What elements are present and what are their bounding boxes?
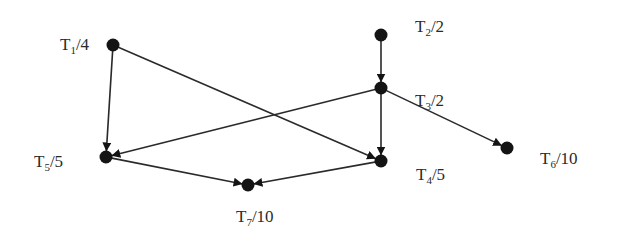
label-prefix: T [60, 35, 70, 54]
node-label-t7: T7/10 [236, 208, 274, 225]
label-prefix: T [540, 149, 550, 168]
edge-t5-t7 [108, 157, 243, 184]
node-label-t1: T1/4 [60, 36, 89, 53]
node-t2 [375, 29, 388, 42]
label-weight: /10 [556, 149, 578, 168]
label-weight: /2 [431, 91, 444, 110]
task-graph-canvas [0, 0, 625, 240]
label-weight: /2 [431, 17, 444, 36]
edge-t1-t4 [115, 46, 376, 159]
label-weight: /10 [252, 207, 274, 226]
label-prefix: T [416, 165, 426, 184]
node-label-t4: T4/5 [416, 166, 445, 183]
node-label-t6: T6/10 [540, 150, 578, 167]
label-weight: /4 [76, 35, 89, 54]
edge-t1-t5 [106, 47, 113, 152]
node-label-t2: T2/2 [415, 18, 444, 35]
label-prefix: T [415, 17, 425, 36]
edge-t3-t5 [111, 88, 379, 155]
label-prefix: T [236, 207, 246, 226]
edges-group [106, 37, 502, 184]
node-t6 [501, 142, 514, 155]
node-t5 [100, 151, 113, 164]
node-t1 [107, 39, 120, 52]
label-weight: /5 [432, 165, 445, 184]
label-weight: /5 [50, 152, 63, 171]
node-t7 [242, 179, 255, 192]
edge-t4-t7 [253, 161, 379, 184]
nodes-group [100, 29, 514, 192]
node-label-t3: T3/2 [415, 92, 444, 109]
node-t4 [375, 155, 388, 168]
label-prefix: T [34, 152, 44, 171]
node-t3 [375, 82, 388, 95]
node-label-t5: T5/5 [34, 153, 63, 170]
label-prefix: T [415, 91, 425, 110]
